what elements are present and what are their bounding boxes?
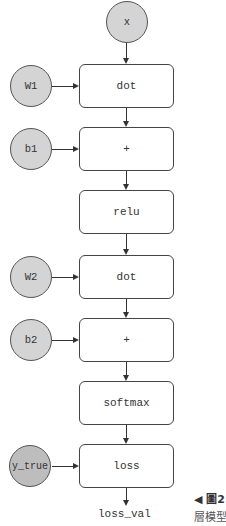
arrowhead	[73, 274, 79, 280]
edge-b1-to-add1	[52, 149, 73, 150]
op-label: dot	[117, 271, 137, 283]
input-node-w2: W2	[10, 256, 52, 298]
op-label: +	[123, 334, 130, 346]
edge-x-to-dot1	[126, 43, 127, 58]
edge-dot2-to-add2	[126, 299, 127, 312]
edge-relu-to-dot2	[126, 234, 127, 249]
node-label: y_true	[12, 461, 48, 472]
op-relu: relu	[79, 190, 174, 234]
node-label: W1	[25, 80, 38, 92]
edge-add1-to-relu	[126, 171, 127, 184]
arrowhead	[73, 146, 79, 152]
op-label: +	[123, 143, 130, 155]
edge-softmax-to-loss	[126, 425, 127, 438]
arrowhead	[73, 463, 79, 469]
input-node-y-true: y_true	[9, 445, 51, 487]
input-node-b1: b1	[10, 128, 52, 170]
edge-w2-to-dot2	[52, 277, 73, 278]
op-add-1: +	[79, 127, 174, 171]
input-node-b2: b2	[10, 319, 52, 361]
edge-b2-to-add2	[52, 340, 73, 341]
op-loss: loss	[79, 444, 174, 488]
input-node-x: x	[106, 1, 148, 43]
node-label: W2	[25, 271, 38, 283]
arrowhead	[73, 83, 79, 89]
op-dot-2: dot	[79, 255, 174, 299]
op-label: loss	[113, 460, 139, 472]
edge-dot1-to-add1	[126, 108, 127, 121]
op-add-2: +	[79, 318, 174, 362]
edge-w1-to-dot1	[52, 86, 73, 87]
arrowhead	[73, 337, 79, 343]
op-label: softmax	[103, 397, 149, 409]
arrowhead	[123, 500, 129, 506]
op-label: dot	[117, 80, 137, 92]
node-label: x	[124, 16, 130, 28]
input-node-w1: W1	[10, 65, 52, 107]
output-label-loss-val: loss_val	[98, 508, 151, 520]
op-dot-1: dot	[79, 64, 174, 108]
edge-add2-to-softmax	[126, 362, 127, 375]
figure-caption-text: 層模型	[194, 508, 226, 524]
op-label: relu	[113, 206, 139, 218]
node-label: b1	[25, 143, 38, 155]
edge-ytrue-to-loss	[52, 466, 73, 467]
node-label: b2	[25, 334, 38, 346]
figure-caption-marker: ◀ 圖2	[194, 490, 225, 506]
op-softmax: softmax	[79, 381, 174, 425]
